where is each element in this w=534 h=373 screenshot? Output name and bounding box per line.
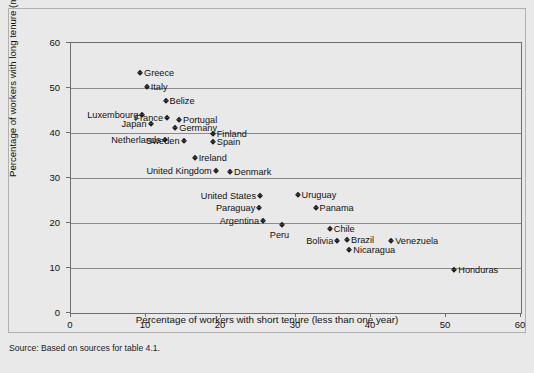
data-point-marker — [451, 267, 457, 270]
y-tick-mark-40 — [66, 132, 70, 133]
y-tick-mark-20 — [66, 222, 70, 223]
data-point-marker — [260, 218, 266, 221]
y-tick-label-30: 30 — [34, 172, 60, 183]
data-point-label: Venezuela — [395, 236, 438, 246]
data-point-label: Nicaragua — [353, 245, 395, 255]
x-tick-label-30: 30 — [280, 319, 310, 330]
data-point-label: Panama — [320, 203, 354, 213]
y-tick-label-40: 40 — [34, 127, 60, 138]
data-point-marker — [164, 115, 170, 118]
data-point-marker — [256, 205, 262, 208]
chart-panel: GreeceItalyBelizeLuxembourgFrancePortuga… — [8, 8, 526, 333]
y-tick-mark-10 — [66, 267, 70, 268]
gridline-y-20 — [71, 223, 521, 224]
data-point-marker — [192, 155, 198, 158]
data-point-marker — [172, 125, 178, 128]
y-tick-label-60: 60 — [34, 37, 60, 48]
y-tick-label-10: 10 — [34, 262, 60, 273]
data-point-label: Japan — [121, 119, 146, 129]
data-point-label: Belize — [170, 96, 195, 106]
x-tick-mark-60 — [520, 313, 521, 317]
data-point-label: Ireland — [199, 153, 227, 163]
data-point-label: Brazil — [351, 235, 374, 245]
data-point-marker — [210, 139, 216, 142]
data-point-marker — [344, 237, 350, 240]
data-point-label: Greece — [144, 68, 174, 78]
data-point-marker — [295, 192, 301, 195]
figure-container: GreeceItalyBelizeLuxembourgFrancePortuga… — [0, 0, 534, 373]
data-point-label: Italy — [151, 82, 168, 92]
data-point-marker — [257, 193, 263, 196]
data-point-label: Peru — [270, 230, 289, 240]
x-tick-mark-30 — [295, 313, 296, 317]
data-point-marker — [213, 168, 219, 171]
data-point-label: Uruguay — [302, 190, 337, 200]
data-point-marker — [148, 121, 154, 124]
data-point-marker — [327, 226, 333, 229]
y-axis-label: Percentage of workers with long tenure (… — [7, 0, 18, 177]
data-point-marker — [227, 169, 233, 172]
y-tick-mark-30 — [66, 177, 70, 178]
data-point-label: Honduras — [458, 265, 498, 275]
y-tick-label-50: 50 — [34, 82, 60, 93]
source-note: Source: Based on sources for table 4.1. — [9, 343, 160, 353]
y-tick-label-0: 0 — [34, 307, 60, 318]
data-point-label: Sweden — [146, 136, 179, 146]
x-tick-label-50: 50 — [430, 319, 460, 330]
data-point-marker — [334, 238, 340, 241]
data-point-label: Bolivia — [306, 236, 333, 246]
x-tick-mark-0 — [70, 313, 71, 317]
data-point-marker — [313, 205, 319, 208]
data-point-marker — [279, 222, 285, 225]
gridline-y-30 — [71, 178, 521, 179]
data-point-marker — [388, 238, 394, 241]
data-point-label: Argentina — [220, 216, 259, 226]
data-point-label: Denmark — [234, 167, 271, 177]
x-tick-mark-20 — [220, 313, 221, 317]
data-point-marker — [181, 137, 187, 140]
y-tick-label-20: 20 — [34, 217, 60, 228]
data-point-marker — [163, 98, 169, 101]
x-tick-label-20: 20 — [205, 319, 235, 330]
x-tick-label-60: 60 — [505, 319, 534, 330]
y-tick-mark-60 — [66, 42, 70, 43]
x-tick-label-40: 40 — [355, 319, 385, 330]
data-point-label: Spain — [217, 137, 241, 147]
x-tick-mark-40 — [370, 313, 371, 317]
data-point-marker — [176, 116, 182, 119]
data-point-marker — [137, 70, 143, 73]
x-tick-label-0: 0 — [55, 319, 85, 330]
y-tick-mark-50 — [66, 87, 70, 88]
data-point-marker — [210, 131, 216, 134]
data-point-label: Paraguay — [216, 203, 255, 213]
x-tick-label-10: 10 — [130, 319, 160, 330]
data-point-marker — [144, 84, 150, 87]
gridline-y-50 — [71, 88, 521, 89]
data-point-label: Chile — [334, 224, 355, 234]
x-tick-mark-10 — [145, 313, 146, 317]
data-point-label: United States — [201, 191, 256, 201]
x-tick-mark-50 — [445, 313, 446, 317]
data-point-label: United Kingdom — [146, 166, 211, 176]
data-point-marker — [346, 247, 352, 250]
plot-area: GreeceItalyBelizeLuxembourgFrancePortuga… — [70, 42, 522, 314]
